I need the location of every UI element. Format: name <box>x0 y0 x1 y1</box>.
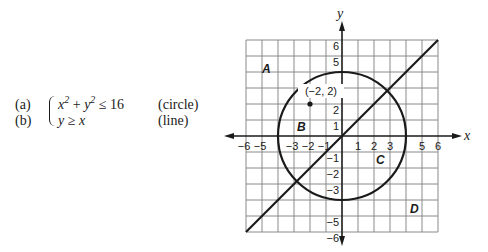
x-axis-label: x <box>463 128 471 143</box>
x-tick-labels: −6 −5 −3 −2 −1 1 2 3 5 6 <box>238 140 441 152</box>
svg-text:−6: −6 <box>238 140 251 152</box>
svg-text:−2: −2 <box>326 168 339 180</box>
svg-text:2: 2 <box>371 140 377 152</box>
svg-text:2: 2 <box>333 104 339 116</box>
region-label-c: C <box>376 153 385 167</box>
svg-text:−2: −2 <box>302 140 315 152</box>
point-marker <box>307 101 312 106</box>
coordinate-graph: x y −6 −5 −3 −2 −1 1 2 3 5 6 6 5 2 1 −1 … <box>0 0 488 252</box>
region-label-a: A <box>261 62 271 76</box>
arrow-left-icon <box>224 133 234 139</box>
svg-text:1: 1 <box>333 120 339 132</box>
arrow-right-icon <box>452 133 462 139</box>
arrow-down-icon <box>339 236 345 246</box>
point-label: (−2, 2) <box>305 85 337 97</box>
svg-text:−5: −5 <box>254 140 267 152</box>
svg-text:3: 3 <box>387 140 393 152</box>
svg-text:6: 6 <box>333 40 339 52</box>
svg-text:6: 6 <box>435 140 441 152</box>
region-label-b: B <box>297 120 306 134</box>
svg-text:−1: −1 <box>326 152 339 164</box>
y-axis-label: y <box>335 6 344 21</box>
svg-text:−3: −3 <box>326 184 339 196</box>
arrow-up-icon <box>339 21 345 31</box>
svg-text:5: 5 <box>419 140 425 152</box>
svg-text:5: 5 <box>333 56 339 68</box>
svg-text:−6: −6 <box>326 232 339 244</box>
svg-text:1: 1 <box>355 140 361 152</box>
svg-text:−3: −3 <box>286 140 299 152</box>
region-label-d: D <box>410 202 419 216</box>
svg-text:−5: −5 <box>326 216 339 228</box>
